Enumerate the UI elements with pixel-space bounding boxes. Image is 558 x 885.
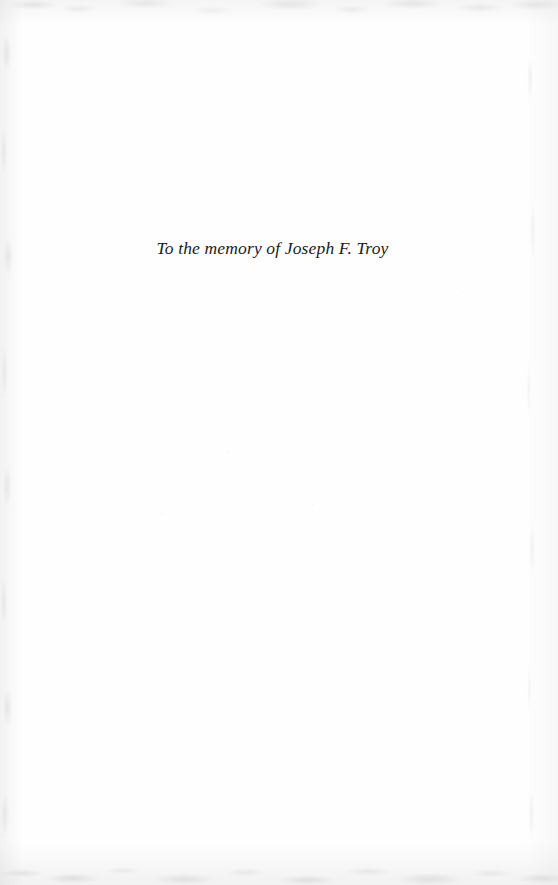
scan-speckle-artifact xyxy=(0,0,558,885)
scan-edge-right-artifact xyxy=(524,0,558,885)
scan-edge-top-artifact xyxy=(0,0,558,26)
dedication-text: To the memory of Joseph F. Troy xyxy=(157,238,389,260)
dedication-page: To the memory of Joseph F. Troy xyxy=(0,0,558,885)
scan-edge-left-artifact xyxy=(0,0,22,885)
dedication-block: To the memory of Joseph F. Troy xyxy=(0,238,545,260)
scan-edge-bottom-artifact xyxy=(0,843,558,885)
